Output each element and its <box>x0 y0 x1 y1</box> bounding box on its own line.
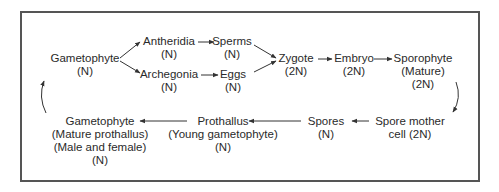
node-label: Sperms <box>212 35 252 48</box>
node-embryo: Embryo (2N) <box>334 52 374 78</box>
node-ploidy: (2N) <box>334 65 374 78</box>
node-label: Archegonia <box>140 68 198 81</box>
node-sporophyte: Sporophyte (Mature) (2N) <box>394 52 453 91</box>
node-gametophyte: Gametophyte (N) <box>50 52 119 78</box>
node-ploidy: (N) <box>52 154 149 167</box>
node-sub: cell (2N) <box>375 128 445 141</box>
arrow-sperms-zygote <box>254 45 276 58</box>
node-label: Gametophyte <box>50 52 119 65</box>
node-ploidy: (N) <box>168 141 278 154</box>
node-label: Spore mother <box>375 115 445 128</box>
node-prothallus: Prothallus (Young gametophyte) (N) <box>168 115 278 154</box>
node-sub: (Mature prothallus) <box>52 128 149 141</box>
node-label: Embryo <box>334 52 374 65</box>
node-ploidy: (N) <box>143 48 195 61</box>
node-ploidy: (2N) <box>394 78 453 91</box>
node-sub: (Mature) <box>394 65 453 78</box>
node-spores: Spores (N) <box>308 115 344 141</box>
arrow-gametophyte-cycle <box>41 81 46 113</box>
node-ploidy: (N) <box>308 128 344 141</box>
node-archegonia: Archegonia (N) <box>140 68 198 94</box>
node-sperms: Sperms (N) <box>212 35 252 61</box>
arrow-eggs-zygote <box>254 61 276 72</box>
node-spore-mother-cell: Spore mother cell (2N) <box>375 115 445 141</box>
arrow-sporophyte-sporemother <box>453 82 458 112</box>
node-label: Spores <box>308 115 344 128</box>
node-sub2: (Male and female) <box>52 141 149 154</box>
node-eggs: Eggs (N) <box>220 68 246 94</box>
node-ploidy: (N) <box>140 81 198 94</box>
node-label: Prothallus <box>168 115 278 128</box>
node-label: Zygote <box>278 52 313 65</box>
node-antheridia: Antheridia (N) <box>143 35 195 61</box>
arrow-gametophyte-archegonia <box>120 61 140 73</box>
node-ploidy: (2N) <box>278 65 313 78</box>
node-ploidy: (N) <box>220 81 246 94</box>
node-ploidy: (N) <box>50 65 119 78</box>
node-gametophyte-mature: Gametophyte (Mature prothallus) (Male an… <box>52 115 149 167</box>
node-label: Sporophyte <box>394 52 453 65</box>
arrow-gametophyte-antheridia <box>120 42 140 58</box>
node-label: Antheridia <box>143 35 195 48</box>
node-zygote: Zygote (2N) <box>278 52 313 78</box>
node-label: Gametophyte <box>52 115 149 128</box>
node-sub: (Young gametophyte) <box>168 128 278 141</box>
node-label: Eggs <box>220 68 246 81</box>
node-ploidy: (N) <box>212 48 252 61</box>
